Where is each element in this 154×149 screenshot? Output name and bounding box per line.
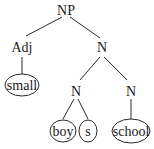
edge-n-nright [104,57,127,80]
leaf-small: small [7,78,37,93]
edge-np-adj [26,17,62,36]
node-n-left: N [71,84,81,99]
edge-nleft-boy [63,99,74,119]
edge-nleft-s [78,99,88,119]
node-adj: Adj [12,40,33,55]
node-np: NP [57,3,75,18]
leaf-boy: boy [53,124,74,139]
node-n-top: N [97,40,107,55]
node-n-right: N [126,84,136,99]
leaf-school: school [113,124,150,139]
leaf-s: s [85,124,90,139]
edge-n-nleft [80,57,100,80]
parse-tree: NP Adj N small N N boy s school [0,0,154,149]
edge-np-n [70,17,100,38]
